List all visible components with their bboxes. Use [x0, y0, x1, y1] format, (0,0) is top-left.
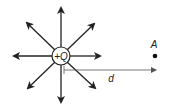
field-arrow-up-left-icon [27, 23, 55, 50]
point-a-label: A [150, 39, 158, 50]
field-arrow-down-right-icon [67, 62, 95, 88]
point-a [153, 54, 158, 59]
field-arrow-down-left-icon [28, 62, 55, 88]
charge-label: +Q [54, 51, 68, 62]
distance-label: d [108, 73, 114, 84]
field-arrow-up-right-icon [67, 24, 94, 50]
field-diagram: +Q d A [0, 0, 170, 111]
